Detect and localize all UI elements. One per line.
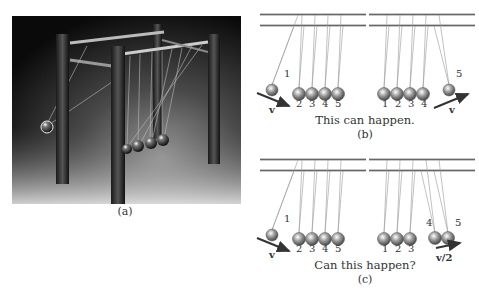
panel-a-label: (a) [100,205,150,218]
ball-number: 1 [284,213,290,224]
velocity-label: v [449,104,455,115]
panel-c-caption: Can this happen? [300,258,430,272]
ball-number: 4 [421,98,427,109]
ball-number: 4 [322,243,328,254]
panel-b-caption: This can happen. [300,113,430,127]
ball-number: 2 [296,243,302,254]
ball-number: 5 [456,68,462,79]
ball-number: 5 [455,217,461,228]
newtons-cradle-photo [12,16,241,204]
velocity-label: v [269,104,275,115]
velocity-arrow-icon [255,90,295,115]
ball-number: 3 [309,243,315,254]
ball-number: 3 [408,98,414,109]
ball-number: 2 [395,243,401,254]
ball-number: 3 [408,243,414,254]
panel-c-label: (c) [340,273,390,286]
ball-number: 1 [382,243,388,254]
ball-number: 4 [322,98,328,109]
ball-number: 5 [335,98,341,109]
panel-b-label: (b) [340,128,390,141]
velocity-label: v [269,249,275,260]
velocity-label: v/2 [436,252,452,263]
ball-number: 4 [426,217,432,228]
ball-number: 5 [335,243,341,254]
velocity-arrow-icon [255,235,295,260]
ball-number: 1 [382,98,388,109]
ball-number: 2 [296,98,302,109]
velocity-arrow-icon [434,238,469,252]
ball-number: 3 [309,98,315,109]
ball-number: 1 [284,68,290,79]
ball-number: 2 [395,98,401,109]
